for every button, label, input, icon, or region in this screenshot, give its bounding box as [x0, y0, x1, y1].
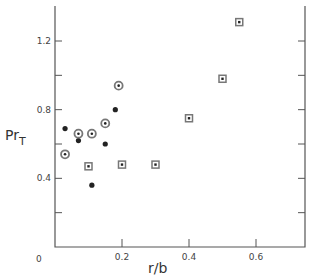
axis-frame [55, 6, 305, 247]
y-tick-label: 1.2 [37, 36, 51, 46]
y-tick-label: 0.4 [37, 173, 52, 183]
x-tick-label: 0.2 [115, 252, 129, 262]
axes [55, 6, 305, 247]
ticks: 0.40.81.20.20.40.6 [37, 36, 305, 262]
filled-dot-marker [103, 141, 108, 146]
scatter-chart: 0.40.81.20.20.40.6 PrT r/b 0 [0, 0, 311, 279]
filled-dot-marker [89, 183, 94, 188]
origin-label: 0 [36, 254, 42, 264]
filled-dot-marker [113, 107, 118, 112]
filled-dot-marker [62, 126, 67, 131]
x-tick-label: 0.4 [182, 252, 197, 262]
axis-labels: PrT r/b 0 [5, 127, 167, 276]
data-points [61, 19, 243, 188]
filled-dot-marker [76, 138, 81, 143]
y-tick-label: 0.8 [37, 105, 52, 115]
x-axis-label: r/b [148, 260, 167, 276]
y-axis-label: PrT [5, 127, 26, 148]
x-tick-label: 0.6 [249, 252, 264, 262]
